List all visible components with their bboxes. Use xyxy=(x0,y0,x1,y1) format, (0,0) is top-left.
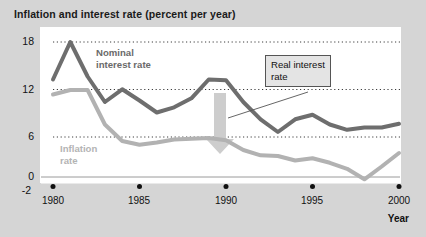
xtick-label-1980: 1980 xyxy=(29,195,77,206)
real-rate-label-line2: rate xyxy=(271,71,325,83)
xtick-dot-1995 xyxy=(310,184,315,189)
inflation-rate-label: Inflation rate xyxy=(60,143,97,166)
xtick-dot-2000 xyxy=(397,184,402,189)
ytick-label-neg2: -2 xyxy=(5,184,31,196)
inflation-label-line1: Inflation xyxy=(60,143,97,155)
nominal-interest-rate-label: Nominal interest rate xyxy=(96,47,151,70)
inflation-label-line2: rate xyxy=(60,155,97,167)
xtick-dot-1985 xyxy=(137,184,142,189)
xtick-label-1995: 1995 xyxy=(288,195,336,206)
ytick-label-12: 12 xyxy=(8,83,34,95)
x-axis-ticks xyxy=(51,184,402,189)
x-axis-title: Year xyxy=(388,213,409,224)
ytick-label-6: 6 xyxy=(8,130,34,142)
nominal-label-line1: Nominal xyxy=(96,47,151,59)
ytick-label-18: 18 xyxy=(8,35,34,47)
xtick-label-1990: 1990 xyxy=(202,195,250,206)
xtick-dot-1980 xyxy=(51,184,56,189)
nominal-label-line2: interest rate xyxy=(96,59,151,71)
real-interest-rate-callout: Real interest rate xyxy=(265,55,331,87)
chart-figure: Inflation and interest rate (percent per… xyxy=(0,0,426,237)
xtick-label-2000: 2000 xyxy=(375,195,423,206)
gap-arrow xyxy=(206,93,234,154)
xtick-label-1985: 1985 xyxy=(115,195,163,206)
xtick-dot-1990 xyxy=(224,184,229,189)
real-rate-label-line1: Real interest xyxy=(271,59,325,71)
ytick-label-0: 0 xyxy=(8,170,34,182)
